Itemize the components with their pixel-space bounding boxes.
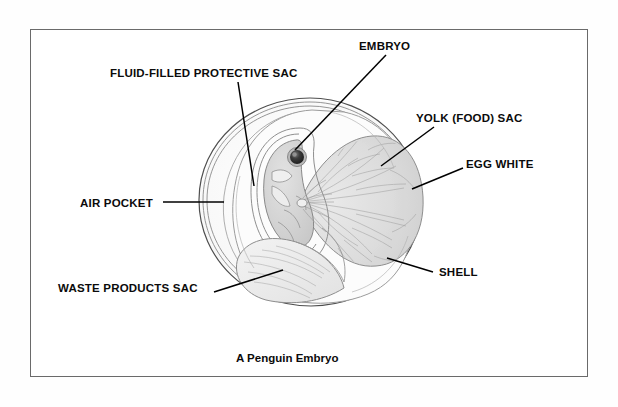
label-waste-sac: WASTE PRODUCTS SAC: [58, 283, 198, 295]
waste-sac-leader: [214, 270, 283, 292]
label-embryo: EMBRYO: [359, 41, 410, 53]
fluid-sac-leader: [238, 82, 254, 186]
label-fluid-sac: FLUID-FILLED PROTECTIVE SAC: [110, 68, 297, 80]
label-shell: SHELL: [439, 267, 478, 279]
label-egg-white: EGG WHITE: [466, 159, 534, 171]
embryo-leader: [295, 55, 386, 150]
figure-caption: A Penguin Embryo: [236, 352, 338, 364]
figure-page: EMBRYO FLUID-FILLED PROTECTIVE SAC YOLK …: [0, 0, 618, 407]
label-air-pocket: AIR POCKET: [80, 198, 153, 210]
shell-leader: [387, 258, 433, 272]
egg-white-leader: [412, 168, 463, 189]
yolk-leader: [381, 127, 434, 166]
label-yolk-sac: YOLK (FOOD) SAC: [416, 113, 523, 125]
